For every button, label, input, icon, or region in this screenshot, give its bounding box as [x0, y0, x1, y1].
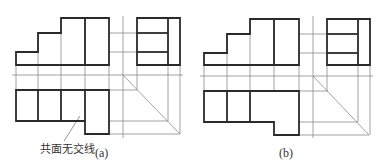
panel-b-views — [204, 19, 370, 135]
panel-b-drawing — [200, 16, 373, 138]
top-view-outline — [204, 91, 299, 135]
side-view-outline — [327, 19, 370, 65]
annotation-leader-line — [64, 116, 80, 141]
caption-a: (a) — [95, 147, 108, 159]
panel-a-views — [16, 18, 180, 134]
miter-line-45deg — [123, 75, 180, 134]
top-view-outline — [16, 90, 109, 134]
side-view-outline — [137, 18, 180, 65]
front-view-outline — [204, 19, 299, 65]
orthographic-projection-drawing — [0, 0, 383, 165]
panel-a-drawing — [12, 16, 183, 141]
miter-line-45deg — [313, 76, 369, 135]
front-view-outline — [16, 18, 109, 65]
caption-b: (b) — [279, 147, 293, 159]
annotation-coplanar-no-intersection: 共面无交线 — [40, 144, 95, 155]
